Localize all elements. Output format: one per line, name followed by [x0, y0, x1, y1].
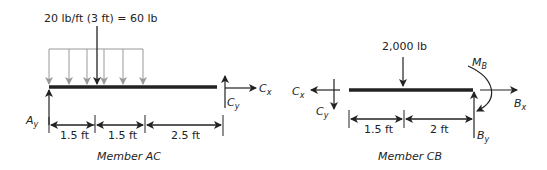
dimension-ac-1: 1.5 ft — [60, 129, 90, 142]
caption-member-ac: Member AC — [97, 150, 161, 163]
reaction-ay-label: Ay — [25, 114, 39, 129]
reaction-by-label: By — [477, 129, 490, 144]
distributed-load-arrows — [49, 49, 143, 84]
reaction-cy-label: Cy — [227, 96, 240, 111]
dimension-cb-1: 1.5 ft — [364, 123, 394, 136]
caption-member-cb: Member CB — [378, 150, 442, 163]
point-load-label: 2,000 lb — [382, 40, 427, 53]
member-ac-diagram: 20 lb/ft (3 ft) = 60 lb Ay Cx Cy — [25, 12, 272, 163]
dimension-ac-3: 2.5 ft — [171, 129, 201, 142]
reaction-cy-label-cb: Cy — [316, 105, 329, 120]
moment-mb-label: MB — [472, 56, 487, 71]
reaction-bx-label: Bx — [514, 97, 527, 112]
dimension-cb-2: 2 ft — [430, 123, 449, 136]
reaction-cx-label: Cx — [259, 82, 272, 97]
reaction-cx-label-cb: Cx — [292, 85, 305, 100]
distributed-load-label: 20 lb/ft (3 ft) = 60 lb — [44, 12, 158, 25]
dimension-ac-2: 1.5 ft — [108, 129, 138, 142]
member-cb-diagram: 2,000 lb Cx Cy Bx By MB 1.5 ft 2 ft Memb… — [292, 40, 527, 163]
